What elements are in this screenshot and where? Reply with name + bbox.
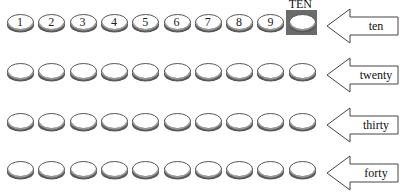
ten-box-label: TEN — [289, 0, 312, 12]
coin-number: 5 — [131, 14, 159, 30]
coin-row-forty: forty — [0, 158, 409, 193]
coin-number: 8 — [225, 14, 253, 30]
coin-icon — [194, 112, 223, 132]
coin-icon — [163, 160, 192, 180]
coin-icon: 8 — [225, 13, 254, 33]
coin-icon — [69, 112, 98, 132]
coin-icon — [256, 62, 285, 82]
coin-icon — [37, 160, 66, 180]
coin-number: 9 — [256, 14, 284, 30]
coin-icon — [256, 160, 285, 180]
arrow-label: twenty — [354, 67, 398, 83]
coin-icon: 9 — [256, 13, 285, 33]
coin-icon — [6, 62, 35, 82]
coin-icon — [225, 62, 254, 82]
coin-icon — [131, 62, 160, 82]
coin-icon — [225, 112, 254, 132]
coin-icon — [131, 160, 160, 180]
coin-number: 7 — [194, 14, 222, 30]
coin-icon — [163, 112, 192, 132]
coin-icon — [100, 62, 129, 82]
coin-number: 1 — [6, 14, 34, 30]
coin-icon: 4 — [100, 13, 129, 33]
arrow-label: forty — [354, 165, 398, 181]
coin-icon — [6, 112, 35, 132]
coin-icon — [69, 62, 98, 82]
coin-icon — [6, 160, 35, 180]
coin-icon — [69, 160, 98, 180]
coin-icon — [288, 13, 317, 33]
coin-icon — [100, 160, 129, 180]
coin-icon — [163, 62, 192, 82]
coin-icon: 5 — [131, 13, 160, 33]
coin-number: 6 — [163, 14, 191, 30]
coin-icon — [288, 160, 317, 180]
arrow-label: ten — [354, 18, 398, 34]
coin-icon — [194, 160, 223, 180]
arrow-label: thirty — [354, 117, 398, 133]
coin-icon — [194, 62, 223, 82]
coin-number: 4 — [100, 14, 128, 30]
coin-number: 3 — [69, 14, 97, 30]
coin-icon — [288, 62, 317, 82]
coin-icon — [288, 112, 317, 132]
coin-number: 2 — [37, 14, 65, 30]
coin-icon — [256, 112, 285, 132]
coin-icon: 6 — [163, 13, 192, 33]
left-arrow-icon: twenty — [326, 57, 400, 93]
coin-icon — [131, 112, 160, 132]
coin-icon — [100, 112, 129, 132]
coin-icon — [225, 160, 254, 180]
left-arrow-icon: ten — [326, 8, 400, 44]
coin-icon: 3 — [69, 13, 98, 33]
coin-icon — [37, 112, 66, 132]
left-arrow-icon: thirty — [326, 107, 400, 143]
coin-icon: 1 — [6, 13, 35, 33]
left-arrow-icon: forty — [326, 155, 400, 191]
coin-row-thirty: thirty — [0, 110, 409, 150]
coin-icon: 7 — [194, 13, 223, 33]
coin-row-twenty: twenty — [0, 60, 409, 100]
coin-icon — [37, 62, 66, 82]
coin-row-ten: 123456789TENten — [0, 11, 409, 51]
coin-icon: 2 — [37, 13, 66, 33]
